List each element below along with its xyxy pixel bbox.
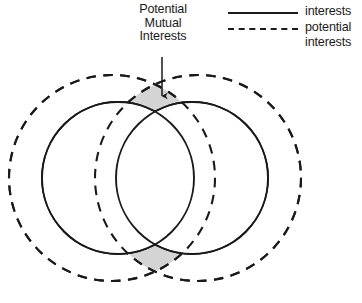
legend-swatch-solid-line-icon <box>228 12 298 17</box>
legend-swatch-dashed-line-icon <box>228 28 298 33</box>
callout-label-line2: Mutual <box>110 17 216 31</box>
figure-root: Potential Mutual Interests interests pot… <box>0 0 362 303</box>
callout-label: Potential Mutual Interests <box>110 3 216 44</box>
figure-caption <box>0 297 362 303</box>
callout-label-line1: Potential <box>110 3 216 17</box>
legend-label-interests-line1: interests <box>305 4 351 19</box>
legend-label-interests: interests <box>305 4 351 19</box>
legend-item-potential-interests: potential interests <box>226 20 362 40</box>
legend-label-potential-interests: potential interests <box>305 20 351 49</box>
callout-label-line3: Interests <box>110 30 216 44</box>
legend-label-potential-interests-line2: interests <box>305 35 351 50</box>
legend-label-potential-interests-line1: potential <box>305 20 351 35</box>
